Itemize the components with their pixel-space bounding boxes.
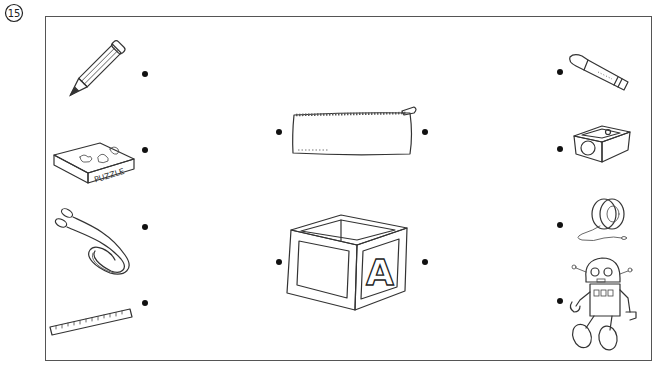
toy-robot-icon — [568, 254, 650, 354]
circled-number-icon: 15 — [4, 3, 24, 23]
svg-text:15: 15 — [8, 8, 21, 19]
crayon-icon — [568, 52, 633, 97]
question-number-badge: 15 — [4, 3, 24, 23]
ruler-picture — [48, 305, 134, 341]
match-dot-pencil-case-left[interactable] — [276, 129, 282, 135]
sharpener-picture — [572, 118, 634, 166]
match-dot-ruler[interactable] — [142, 300, 148, 306]
robot-picture — [568, 254, 650, 354]
ruler-icon — [48, 305, 134, 341]
pencil-sharpener-icon — [572, 118, 634, 166]
pencil-case-icon — [288, 105, 418, 160]
toy-block-icon: A — [287, 213, 417, 313]
yoyo-picture — [574, 196, 632, 246]
jump-rope-picture — [55, 205, 140, 280]
match-dot-robot[interactable] — [557, 298, 563, 304]
match-dot-crayon[interactable] — [557, 69, 563, 75]
yoyo-icon — [574, 196, 632, 246]
puzzle-box-picture: PUZZLE — [52, 137, 137, 187]
pencil-case-picture — [288, 105, 418, 160]
puzzle-box-icon: PUZZLE — [52, 137, 137, 187]
match-dot-block-right[interactable] — [422, 259, 428, 265]
jump-rope-icon — [55, 205, 140, 280]
match-dot-yoyo[interactable] — [557, 222, 563, 228]
toy-block-picture: A — [287, 213, 417, 313]
match-dot-sharpener[interactable] — [557, 146, 563, 152]
pencil-icon — [55, 32, 135, 112]
match-dot-block-left[interactable] — [276, 259, 282, 265]
match-dot-pencil[interactable] — [142, 71, 148, 77]
pencil-picture — [55, 32, 135, 112]
svg-text:A: A — [366, 252, 394, 293]
match-dot-puzzle[interactable] — [142, 147, 148, 153]
crayon-picture — [568, 52, 633, 97]
match-dot-jump-rope[interactable] — [142, 224, 148, 230]
match-dot-pencil-case-right[interactable] — [422, 129, 428, 135]
